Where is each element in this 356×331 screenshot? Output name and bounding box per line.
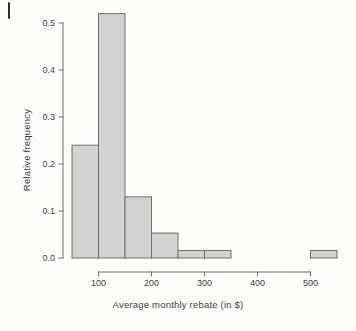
x-tick-label: 400	[250, 278, 265, 288]
x-tick-label: 100	[91, 278, 106, 288]
histogram-bar	[152, 233, 179, 258]
x-axis-label: Average monthly rebate (in $)	[113, 299, 244, 310]
histogram-bar	[178, 250, 205, 258]
histogram-bar	[99, 14, 126, 258]
x-tick-label: 200	[144, 278, 159, 288]
x-axis	[99, 272, 311, 276]
x-tick-label: 300	[197, 278, 212, 288]
y-tick-label: 0.3	[42, 112, 55, 122]
y-tick-label: 0.5	[42, 18, 55, 28]
histogram-bar	[125, 197, 152, 258]
y-tick-label: 0.0	[42, 253, 55, 263]
y-tick-labels: 0.00.10.20.30.40.5	[42, 18, 55, 263]
y-tick-label: 0.4	[42, 65, 55, 75]
x-tick-label: 500	[303, 278, 318, 288]
histogram-bar	[205, 250, 232, 258]
bars-group	[72, 14, 337, 258]
histogram-bar	[72, 145, 99, 258]
y-axis-label: Relative frequency	[21, 109, 32, 191]
y-tick-label: 0.1	[42, 206, 55, 216]
histogram-plot: 0.00.10.20.30.40.5 100200300400500 Avera…	[0, 0, 356, 331]
y-axis	[59, 23, 63, 258]
x-tick-labels: 100200300400500	[91, 278, 318, 288]
histogram-figure: 0.00.10.20.30.40.5 100200300400500 Avera…	[0, 0, 356, 331]
histogram-bar	[311, 250, 338, 258]
y-tick-label: 0.2	[42, 159, 55, 169]
